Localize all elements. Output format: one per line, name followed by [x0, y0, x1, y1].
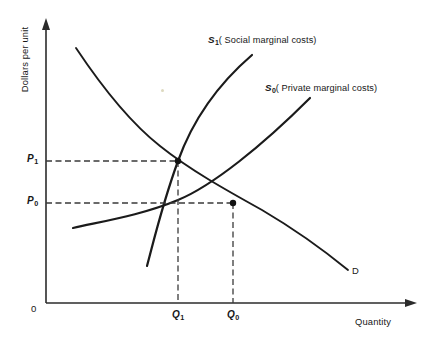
- figure-root: Dollars per unit Quantity 0 P1 P0 Q1 Q0 …: [0, 0, 436, 338]
- curve-label-private-description: ( Private marginal costs): [276, 83, 378, 93]
- y-tick-p1-subscript: 1: [34, 157, 38, 166]
- curve-label-private: S0( Private marginal costs): [265, 82, 377, 93]
- curve-label-social-symbol: S1: [208, 34, 219, 45]
- curve-label-private-letter: S: [265, 82, 272, 93]
- curve-label-social: S1( Social marginal costs): [208, 34, 317, 45]
- x-tick-label-q1: Q1: [172, 309, 184, 320]
- x-axis-title: Quantity: [355, 316, 391, 327]
- x-axis: [46, 299, 417, 307]
- y-axis-title: Dollars per unit: [19, 14, 30, 106]
- intersection-point-private: [230, 200, 236, 206]
- curve-label-demand: D: [352, 265, 359, 276]
- curve-label-social-letter: S: [208, 34, 215, 45]
- y-tick-p0-subscript: 0: [34, 199, 38, 208]
- chart-svg: [0, 0, 436, 338]
- supply-curve-private: [73, 98, 310, 228]
- x-tick-q0-subscript: 0: [235, 313, 239, 322]
- x-tick-q1-symbol: Q: [172, 309, 180, 320]
- x-tick-q0-symbol: Q: [227, 309, 235, 320]
- curve-label-private-symbol: S0: [265, 82, 276, 93]
- origin-label: 0: [31, 303, 37, 314]
- y-axis-arrow-icon: [42, 18, 50, 30]
- intersection-point-social: [175, 158, 181, 164]
- y-tick-p1-symbol: P: [27, 153, 34, 164]
- x-tick-q1-subscript: 1: [180, 313, 184, 322]
- curve-label-social-description: ( Social marginal costs): [219, 35, 317, 45]
- paper-speck: [161, 89, 164, 92]
- x-tick-label-q0: Q0: [227, 309, 239, 320]
- curve-label-social-subscript: 1: [215, 39, 219, 46]
- curve-label-private-subscript: 0: [272, 87, 276, 94]
- y-tick-label-p1: P1: [27, 153, 38, 164]
- y-tick-p0-symbol: P: [27, 195, 34, 206]
- y-tick-label-p0: P0: [27, 195, 38, 206]
- x-axis-arrow-icon: [405, 299, 417, 307]
